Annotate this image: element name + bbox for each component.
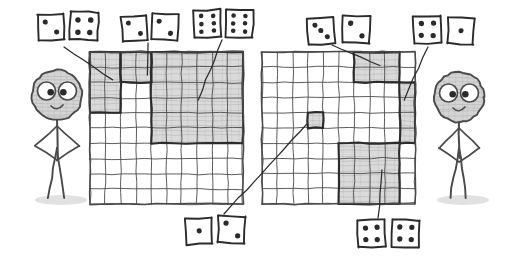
right-stick-figure-eye-1-pupil (462, 91, 469, 98)
bottom-right-pair-die-1-pips-4 (391, 219, 420, 248)
bottom-right-pair-die-0-face (358, 220, 386, 248)
right-grid-region-1x1-outline-edge-3 (307, 113, 308, 128)
right-grid-hline-3 (262, 97, 415, 98)
right-stick-figure-arm-left (439, 128, 459, 148)
top-left-pair-die-1-face (70, 12, 99, 41)
bottom-center-pair-die-1-pips-2 (217, 216, 245, 244)
bottom-right-pair-die-1-outline-edge-3 (391, 220, 392, 247)
top-right-center-pair-die-1-face (343, 16, 371, 44)
top-left-center-pair-die-1-face (151, 13, 178, 40)
top-left-center-pair-die-0-face (121, 15, 148, 42)
top-left-center-pair-leader-line (147, 43, 148, 75)
top-right-pair-die-0-outline-edge-1 (441, 16, 442, 43)
bottom-center-pair-die-0-outline-edge-1 (211, 218, 212, 244)
left-stick-figure-arm-left (35, 126, 57, 146)
bottom-right-pair-die-1-outline-edge-1 (418, 220, 419, 247)
left-stick-figure-eye-1-pupil (60, 89, 67, 96)
right-stick-figure-ground-shadow (437, 195, 489, 205)
left-stick-figure-forearm-right (57, 146, 79, 161)
right-grid (261, 51, 416, 205)
sketch-illustration (0, 0, 512, 257)
left-stick-figure-eye-0-pupil (47, 89, 54, 96)
right-grid-region-1x4-outline-edge-3 (399, 82, 400, 143)
right-stick-figure-eye-0-pupil (449, 91, 456, 98)
right-grid-region-3x2-outline-edge-1 (399, 52, 400, 82)
top-center-pair-die-1-outline-edge-0 (226, 9, 253, 10)
right-grid-region-1x1 (308, 113, 323, 128)
right-grid-region-1x1-outline-edge-2 (308, 127, 323, 128)
right-grid-region-3x2-outline-edge-2 (354, 82, 400, 83)
top-right-pair-die-0-outline-edge-0 (414, 16, 441, 18)
top-right-pair-die-0-face (414, 16, 442, 44)
right-stick-figure-arm-right (459, 128, 479, 148)
left-grid-vline-8 (212, 52, 213, 204)
right-grid-region-1x1-outline-edge-1 (323, 113, 324, 128)
top-center-pair-die-0-outline-edge-3 (193, 10, 194, 37)
left-grid (89, 51, 243, 205)
left-grid-region-2x2-outline-edge-2 (121, 82, 152, 83)
right-grid-region-4x4-outline-edge-3 (338, 143, 339, 204)
top-right-pair-die-0-pips-4 (413, 16, 442, 45)
top-center-pair-die-0-face (194, 10, 222, 38)
right-stick-figure-forearm-left (439, 148, 459, 162)
bottom-right-pair-die-0-outline-edge-0 (358, 219, 385, 220)
top-center-pair-die-1-outline-edge-3 (225, 10, 226, 37)
top-left-pair-die-0-pips-2 (37, 13, 65, 41)
right-grid-region-3x2-outline-edge-3 (353, 52, 354, 82)
top-left-center-pair-die-0-pips-2 (121, 15, 148, 42)
right-grid-region-4x4-outline-edge-0 (339, 143, 400, 144)
right-grid-region-1x4-outline-edge-2 (400, 143, 415, 144)
top-left-pair-die-1-pips-4 (69, 11, 99, 41)
right-stick-figure (434, 72, 489, 205)
top-right-center-pair-die-0-pips-3 (306, 17, 335, 46)
sketch-canvas (0, 0, 512, 257)
bottom-center-pair-die-1-face (218, 216, 246, 244)
right-stick-figure-leg-right (459, 148, 466, 198)
top-left-center-pair-die-1-pips-2 (151, 13, 179, 41)
top-left-pair-die-0-face (37, 13, 64, 40)
left-grid-region-6x6-outline-edge-2 (151, 143, 243, 144)
top-center-pair-die-1-face (226, 10, 254, 38)
left-stick-figure-ground-shadow (35, 195, 87, 205)
top-center-pair-die-0-pips-6 (193, 9, 221, 38)
top-right-pair-die-1-pips-1 (447, 17, 475, 45)
top-center-pair-die-1-pips-6 (225, 9, 254, 38)
bottom-right-pair-die-1-outline-edge-2 (392, 247, 419, 249)
left-stick-figure-forearm-left (35, 146, 57, 160)
right-grid-region-1x1-outline-edge-0 (308, 112, 323, 113)
top-right-center-pair-die-1-pips-2 (342, 15, 371, 43)
bottom-center-pair-die-0-pips-1 (185, 218, 213, 246)
bottom-center-pair-die-0-outline-edge-0 (186, 218, 212, 220)
top-center-pair-die-0-outline-edge-1 (220, 10, 222, 37)
left-stick-figure-arm-right (57, 126, 79, 146)
left-grid-region-6x6-outline-edge-3 (151, 52, 152, 143)
bottom-right-pair-die-0-pips-4 (357, 219, 386, 248)
top-left-pair-die-0-outline-edge-0 (37, 13, 63, 15)
right-grid-region-4x4-outline-edge-1 (399, 143, 400, 204)
bottom-right-pair-die-1-face (392, 220, 420, 248)
top-right-center-pair-die-1-outline-edge-0 (343, 15, 370, 17)
left-stick-figure (32, 69, 87, 205)
